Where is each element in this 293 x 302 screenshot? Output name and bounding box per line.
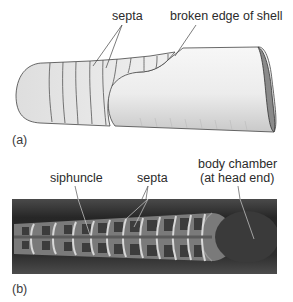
label-at-head-end: (at head end)	[200, 172, 274, 185]
leader-lines-b	[0, 0, 293, 302]
label-septa-b: septa	[137, 172, 168, 185]
label-body-chamber: body chamber	[198, 158, 277, 171]
label-siphuncle: siphuncle	[50, 172, 103, 185]
panel-b-label: (b)	[12, 282, 27, 296]
